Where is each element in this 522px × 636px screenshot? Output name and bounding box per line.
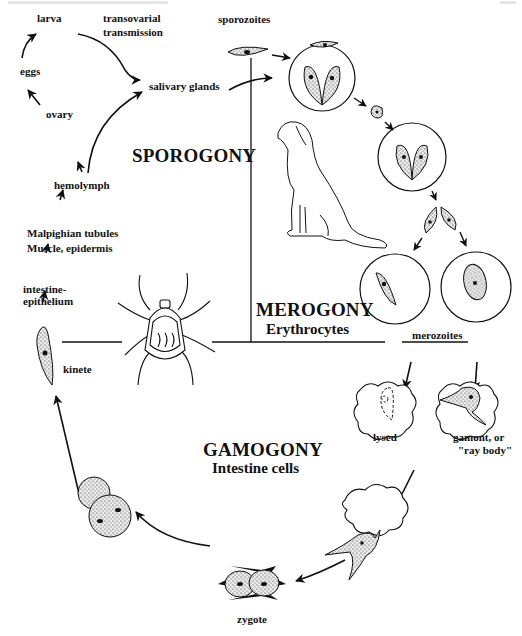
life-cycle-diagram: larva transovarial transmission sporozoi…: [0, 0, 522, 636]
label-gamont: gamont, or: [453, 432, 504, 444]
erythrocyte-binary-fission: [378, 123, 446, 191]
paired-merozoites: [424, 207, 456, 233]
label-transovarial: transovarial: [103, 13, 160, 25]
phase-gamogony-sub: Intestine cells: [212, 461, 299, 477]
kinete-cell: [37, 327, 53, 385]
label-salivary-glands: salivary glands: [149, 81, 220, 93]
label-sporozoites: sporozoites: [218, 14, 270, 26]
page-header: [8, 1, 516, 4]
dividing-zygote-cells: [78, 477, 131, 537]
label-intestine: intestine-: [23, 284, 66, 296]
phase-merogony-sub: Erythrocytes: [266, 322, 349, 338]
erythrocyte-merozoite-right: [441, 252, 511, 322]
phase-merogony: MEROGONY: [256, 300, 374, 320]
label-zygote: zygote: [237, 614, 267, 626]
label-muscle-epidermis: Muscle, epidermis: [27, 243, 113, 255]
label-merozoites: merozoites: [412, 330, 463, 342]
intestine-cell-gamont: [325, 484, 408, 580]
free-merozoite: [371, 106, 383, 118]
label-eggs: eggs: [20, 66, 40, 78]
phase-gamogony: GAMOGONY: [203, 440, 323, 460]
zygote-cell: [218, 566, 286, 600]
tick-icon: [118, 273, 215, 385]
label-epithelium: epithelium: [23, 296, 73, 308]
sporozoite-cell: [228, 47, 268, 55]
label-larva: larva: [37, 13, 61, 25]
label-transmission: transmission: [103, 27, 163, 39]
label-ovary: ovary: [46, 109, 73, 121]
phase-sporogony: SPOROGONY: [132, 146, 256, 166]
label-ray-body: "ray body": [458, 445, 512, 457]
dog-icon: [278, 122, 387, 248]
label-kinete: kinete: [63, 364, 92, 376]
label-lysed: lysed: [373, 432, 397, 444]
label-hemolymph: hemolymph: [54, 180, 110, 192]
label-malpighian-tubules: Malpighian tubules: [27, 228, 118, 240]
erythrocyte-sporozoite-invasion: [289, 41, 355, 111]
